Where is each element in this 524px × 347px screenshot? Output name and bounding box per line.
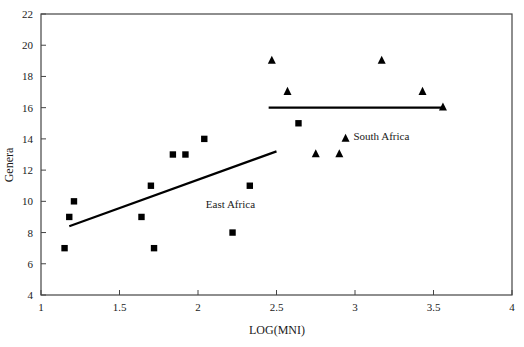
x-tick-label: 3 [352, 301, 358, 313]
y-tick-label: 20 [22, 39, 34, 51]
data-point-square [71, 198, 77, 204]
y-tick-label: 22 [22, 8, 33, 20]
data-point-square [61, 245, 67, 251]
data-point-square [229, 229, 235, 235]
data-point-square [295, 120, 301, 126]
y-tick-label: 12 [22, 164, 33, 176]
x-tick-label: 1.5 [113, 301, 127, 313]
data-point-square [138, 214, 144, 220]
data-point-square [170, 151, 176, 157]
x-tick-label: 1 [38, 301, 44, 313]
y-tick-label: 18 [22, 70, 34, 82]
x-tick-label: 3.5 [427, 301, 441, 313]
series-label-east-africa: East Africa [206, 198, 255, 210]
chart-canvas: 11.522.533.54 46810121416182022 East Afr… [0, 0, 524, 347]
y-tick-label: 4 [28, 289, 34, 301]
series-label-south-africa: South Africa [353, 130, 409, 142]
y-axis-title: Genera [2, 147, 16, 182]
y-tick-label: 6 [28, 258, 34, 270]
x-tick-label: 2 [195, 301, 201, 313]
data-point-square [66, 214, 72, 220]
data-point-square [182, 151, 188, 157]
scatter-plot-figure: 11.522.533.54 46810121416182022 East Afr… [0, 0, 524, 347]
y-tick-label: 8 [28, 227, 34, 239]
data-point-square [201, 136, 207, 142]
y-tick-label: 14 [22, 133, 34, 145]
y-tick-label: 16 [22, 102, 34, 114]
data-point-square [247, 183, 253, 189]
x-axis-title: LOG(MNI) [249, 323, 305, 337]
y-tick-label: 10 [22, 195, 34, 207]
data-point-square [148, 183, 154, 189]
x-tick-label: 4 [509, 301, 515, 313]
data-point-square [151, 245, 157, 251]
x-tick-label: 2.5 [270, 301, 284, 313]
